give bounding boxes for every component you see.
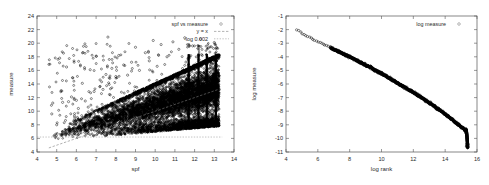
outlier-point [109,88,111,90]
outlier-point [178,48,180,50]
data-point [77,132,79,134]
outlier-point [67,101,69,103]
outlier-point [161,73,163,75]
outlier-point [77,107,79,109]
outlier-point [209,65,211,67]
outlier-point [73,89,75,91]
x-tick-label: 10 [152,156,158,162]
figure-container: 45678910111213144681012141618202224spfme… [0,0,489,185]
outlier-point [129,82,131,84]
outlier-point [73,80,75,82]
data-point [75,134,77,136]
data-point [191,71,193,73]
outlier-point [84,52,86,54]
y-tick-label: 16 [28,67,34,73]
outlier-point [65,105,67,107]
outlier-point [137,64,139,66]
outlier-point [112,62,114,64]
outlier-point [184,64,186,66]
outlier-point [209,51,211,53]
legend-label: y = x [196,28,208,34]
outlier-point [63,52,65,54]
outlier-point [160,43,162,45]
y-axis-title: measure [8,72,14,96]
chart-panel-left: 45678910111213144681012141618202224spfme… [0,0,245,185]
data-point [57,138,59,140]
scatter-points-log-measure [295,29,469,149]
outlier-point [93,90,95,92]
outlier-point [148,57,150,59]
outlier-point [101,81,103,83]
outlier-point [56,122,58,124]
legend-left: spf vs measurey = x-log 0.002 [171,21,229,42]
outlier-point [59,114,61,116]
y-tick-label: -4 [278,54,283,60]
outlier-point [127,90,129,92]
legend-marker-open-circle [220,23,223,26]
outlier-point [59,62,61,64]
outlier-point [72,47,74,49]
legend-label: -log 0.002 [184,36,208,42]
y-axis-title: log measure [251,67,257,101]
x-tick-label: 8 [348,156,351,162]
outlier-point [108,58,110,60]
outlier-point [120,91,122,93]
outlier-point [51,113,53,115]
y-tick-label: -9 [278,122,283,128]
outlier-point [111,58,113,60]
outlier-point [75,99,77,101]
outlier-point [106,65,108,67]
outlier-point [76,75,78,77]
outlier-point [201,48,203,50]
x-tick-label: 7 [95,156,98,162]
outlier-point [65,80,67,82]
y-tick-label: 4 [31,149,34,155]
outlier-point [134,86,136,88]
outlier-point [78,60,80,62]
data-point [205,50,207,52]
outlier-point [90,104,92,106]
outlier-point [131,70,133,72]
outlier-point [148,79,150,81]
data-point [62,138,64,140]
data-point [215,51,217,53]
scatter-plot-spf-vs-measure: 45678910111213144681012141618202224spfme… [0,0,245,185]
outlier-point [190,55,192,57]
outlier-point [102,59,104,61]
outlier-point [95,43,97,45]
outlier-point [106,43,108,45]
data-point [209,73,211,75]
outlier-point [68,58,70,60]
outlier-point [127,74,129,76]
legend-label: spf vs measure [171,21,208,27]
y-tick-label: -3 [278,40,283,46]
legend-right: log measure [416,21,460,27]
x-tick-label: 10 [378,156,384,162]
outlier-point [56,124,58,126]
outlier-point [61,79,63,81]
outlier-point [100,68,102,70]
x-tick-label: 6 [75,156,78,162]
outlier-point [164,64,166,66]
outlier-point [82,45,84,47]
outlier-point [128,42,130,44]
outlier-point [136,86,138,88]
outlier-point [73,84,75,86]
outlier-point [166,56,168,58]
y-tick-label: 18 [28,54,34,60]
outlier-point [152,39,154,41]
x-tick-label: 8 [114,156,117,162]
outlier-point [133,90,135,92]
outlier-point [148,60,150,62]
outlier-point [149,69,151,71]
outlier-point [73,54,75,56]
outlier-point [91,54,93,56]
y-tick-label: -2 [278,27,283,33]
outlier-point [74,113,76,115]
outlier-point [131,67,133,69]
data-point [79,133,81,135]
data-series-group-left [37,36,222,148]
y-tick-label: 6 [31,135,34,141]
y-tick-label: -6 [278,81,283,87]
data-point [71,134,73,136]
